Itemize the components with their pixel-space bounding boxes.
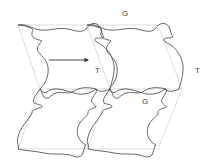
tile-lower-right	[87, 88, 166, 157]
label-g-lower: G	[142, 97, 148, 106]
tessellation-diagram: G T T G	[0, 0, 213, 167]
label-t-middle: T	[95, 66, 100, 75]
tile-upper-right	[87, 23, 183, 94]
tile-upper-left	[18, 23, 114, 94]
label-t-right: T	[195, 66, 200, 75]
tile-row-upper	[18, 23, 183, 94]
tile-lower-left	[17, 88, 96, 157]
label-g-top: G	[122, 9, 128, 18]
